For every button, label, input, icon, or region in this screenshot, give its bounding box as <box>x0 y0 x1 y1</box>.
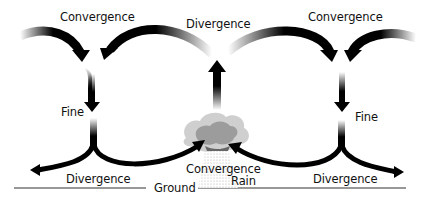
label-divergence-top-center: Divergence <box>186 19 251 31</box>
label-divergence-bottom-right: Divergence <box>313 174 378 186</box>
label-convergence-top-right: Convergence <box>308 12 383 24</box>
convergence-arrow-top-left-b <box>100 29 212 60</box>
label-divergence-bottom-left: Divergence <box>66 174 131 186</box>
label-fine-left: Fine <box>61 107 84 119</box>
downdraft-arrow-left <box>84 68 100 112</box>
convergence-arrow-top-right-a <box>228 31 338 62</box>
convergence-arrow-top-left-a <box>20 31 90 62</box>
label-ground: Ground <box>154 183 196 195</box>
label-rain: Rain <box>231 176 256 188</box>
convergence-arrow-top-right-b <box>344 34 416 62</box>
downdraft-arrow-right <box>334 72 350 112</box>
divergence-split-left <box>30 118 205 176</box>
label-fine-right: Fine <box>355 112 378 124</box>
updraft-arrow <box>208 60 226 110</box>
label-convergence-top-left: Convergence <box>60 12 135 24</box>
